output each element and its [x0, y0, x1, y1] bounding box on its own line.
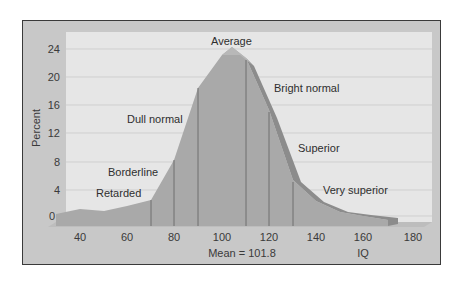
y-tick-20: 20	[48, 71, 60, 83]
x-tick-80: 80	[168, 231, 180, 243]
iq-distribution-chart: 24 20 16 12 8 4 0 Percent 40 60 80 100 1…	[0, 0, 465, 282]
x-axis-label: IQ	[357, 247, 369, 259]
x-tick-160: 160	[354, 231, 372, 243]
y-axis: 24 20 16 12 8 4 0 Percent	[30, 43, 60, 222]
y-tick-0: 0	[49, 210, 55, 222]
y-tick-16: 16	[48, 99, 60, 111]
label-very-superior: Very superior	[323, 184, 388, 196]
y-tick-24: 24	[48, 43, 60, 55]
x-tick-100: 100	[213, 231, 231, 243]
y-tick-4: 4	[54, 184, 60, 196]
x-tick-40: 40	[74, 231, 86, 243]
label-dull-normal: Dull normal	[127, 113, 183, 125]
x-axis: 40 60 80 100 120 140 160 180 Mean = 101.…	[74, 231, 422, 259]
x-tick-180: 180	[404, 231, 422, 243]
y-axis-label: Percent	[30, 109, 42, 147]
label-borderline: Borderline	[108, 166, 158, 178]
label-retarded: Retarded	[96, 187, 141, 199]
label-superior: Superior	[298, 142, 340, 154]
mean-annotation: Mean = 101.8	[208, 247, 276, 259]
x-tick-120: 120	[260, 231, 278, 243]
y-tick-8: 8	[54, 156, 60, 168]
y-tick-12: 12	[48, 127, 60, 139]
x-tick-140: 140	[307, 231, 325, 243]
label-bright-normal: Bright normal	[274, 82, 339, 94]
label-average: Average	[211, 35, 252, 47]
x-tick-60: 60	[121, 231, 133, 243]
